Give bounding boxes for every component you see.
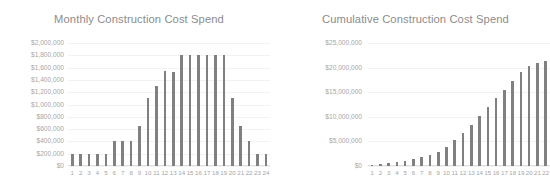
bar-slot <box>368 43 376 166</box>
bar-slot <box>228 43 236 166</box>
cumulative-bar-series <box>368 43 550 166</box>
bar <box>511 81 514 166</box>
x-axis-tick-label: 24 <box>262 170 270 176</box>
x-axis-tick-label: 18 <box>509 170 517 176</box>
bar <box>536 63 539 166</box>
x-axis-tick-label: 15 <box>186 170 194 176</box>
bar-slot <box>525 43 533 166</box>
bar-slot <box>161 43 169 166</box>
bar <box>453 140 456 166</box>
x-axis-tick-label: 14 <box>177 170 185 176</box>
x-axis-tick-label: 17 <box>203 170 211 176</box>
x-axis-tick-label: 1 <box>68 170 76 176</box>
bar <box>528 66 531 166</box>
bar <box>470 125 473 166</box>
bar-slot <box>467 43 475 166</box>
y-axis-tick-label: $200,000 <box>36 150 64 157</box>
bar <box>172 72 175 166</box>
y-axis-tick-label: $400,000 <box>36 138 64 145</box>
bar-slot <box>186 43 194 166</box>
x-axis-tick-label: 3 <box>385 170 393 176</box>
y-axis-tick-label: $5,000,000 <box>329 138 362 145</box>
x-axis-tick-label: 2 <box>76 170 84 176</box>
bar-slot <box>409 43 417 166</box>
bar <box>248 141 251 166</box>
bar-slot <box>194 43 202 166</box>
x-axis-tick-label: 20 <box>525 170 533 176</box>
bar-slot <box>68 43 76 166</box>
bar <box>544 61 547 166</box>
bar-slot <box>110 43 118 166</box>
bar-slot <box>442 43 450 166</box>
bar-slot <box>76 43 84 166</box>
bar <box>96 154 99 166</box>
monthly-plot-area <box>68 43 270 166</box>
bar <box>121 141 124 166</box>
bar <box>396 162 399 166</box>
x-axis-tick-label: 15 <box>484 170 492 176</box>
bar <box>387 163 390 166</box>
bar-slot <box>85 43 93 166</box>
bar-slot <box>169 43 177 166</box>
x-axis-tick-label: 10 <box>442 170 450 176</box>
y-axis-tick-label: $15,000,000 <box>325 89 362 96</box>
bar <box>520 72 523 166</box>
x-axis-tick-label: 4 <box>93 170 101 176</box>
x-axis-tick-label: 16 <box>492 170 500 176</box>
bar <box>404 161 407 166</box>
x-axis-tick-label: 21 <box>236 170 244 176</box>
bar <box>113 141 116 166</box>
bar-slot <box>426 43 434 166</box>
bar-slot <box>177 43 185 166</box>
y-axis-tick-label: $10,000,000 <box>325 114 362 121</box>
x-axis-tick-label: 8 <box>426 170 434 176</box>
bar-slot <box>253 43 261 166</box>
bar <box>239 126 242 166</box>
bar-slot <box>542 43 550 166</box>
x-axis-tick-label: 5 <box>102 170 110 176</box>
bar <box>206 55 209 166</box>
bar-slot <box>533 43 541 166</box>
x-axis-tick-label: 5 <box>401 170 409 176</box>
cumulative-y-axis-labels: $25,000,000$20,000,000$15,000,000$10,000… <box>300 43 362 166</box>
x-axis-tick-label: 17 <box>500 170 508 176</box>
bar-slot <box>144 43 152 166</box>
bar <box>155 86 158 166</box>
x-axis-tick-label: 23 <box>253 170 261 176</box>
bar-slot <box>500 43 508 166</box>
bar-slot <box>385 43 393 166</box>
bar <box>197 55 200 166</box>
bar-slot <box>93 43 101 166</box>
bar <box>231 98 234 166</box>
monthly-cost-chart-panel: Monthly Construction Cost Spend $2,000,0… <box>0 0 278 195</box>
bar-slot <box>152 43 160 166</box>
bar <box>478 116 481 166</box>
x-axis-tick-label: 22 <box>542 170 550 176</box>
bar-slot <box>459 43 467 166</box>
gridline <box>68 166 270 167</box>
y-axis-tick-label: $1,600,000 <box>31 64 64 71</box>
x-axis-tick-label: 22 <box>245 170 253 176</box>
x-axis-tick-label: 6 <box>409 170 417 176</box>
bar-slot <box>451 43 459 166</box>
bar-slot <box>484 43 492 166</box>
y-axis-tick-label: $1,000,000 <box>31 101 64 108</box>
y-axis-tick-label: $0 <box>57 163 64 170</box>
bar-slot <box>492 43 500 166</box>
x-axis-tick-label: 12 <box>459 170 467 176</box>
y-axis-tick-label: $2,000,000 <box>31 40 64 47</box>
bar <box>437 152 440 166</box>
bar-slot <box>102 43 110 166</box>
x-axis-tick-label: 7 <box>119 170 127 176</box>
x-axis-tick-label: 11 <box>152 170 160 176</box>
cumulative-x-axis-labels: 12345678910111213141516171819202122 <box>368 170 550 176</box>
bar-slot <box>127 43 135 166</box>
x-axis-tick-label: 8 <box>127 170 135 176</box>
x-axis-tick-label: 12 <box>161 170 169 176</box>
bar <box>495 98 498 166</box>
monthly-y-axis-labels: $2,000,000$1,800,000$1,600,000$1,400,000… <box>14 43 64 166</box>
x-axis-tick-label: 13 <box>467 170 475 176</box>
bar-slot <box>475 43 483 166</box>
x-axis-tick-label: 6 <box>110 170 118 176</box>
cumulative-plot-area <box>368 43 550 166</box>
